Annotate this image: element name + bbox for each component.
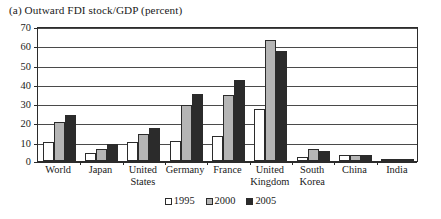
x-axis-label-line: States bbox=[113, 176, 173, 188]
bar-group bbox=[123, 28, 165, 161]
bar bbox=[234, 80, 245, 161]
x-axis-label: India bbox=[367, 164, 427, 176]
bar bbox=[212, 136, 223, 161]
y-tick-0 bbox=[34, 162, 38, 163]
bar bbox=[107, 144, 118, 161]
bar bbox=[223, 95, 234, 161]
x-axis-label-line: Korea bbox=[282, 176, 342, 188]
bar bbox=[138, 134, 149, 161]
bar bbox=[96, 149, 107, 161]
bar bbox=[297, 157, 308, 161]
bar bbox=[350, 155, 361, 161]
bar bbox=[361, 155, 372, 161]
y-axis-label-30: 30 bbox=[21, 100, 31, 110]
bar bbox=[319, 151, 330, 161]
chart-legend: 199520002005 bbox=[0, 196, 441, 206]
chart-title: (a) Outward FDI stock/GDP (percent) bbox=[9, 4, 182, 17]
legend-label: 2000 bbox=[215, 196, 236, 206]
bar bbox=[276, 51, 287, 161]
bar-group bbox=[292, 28, 334, 161]
y-axis-label-20: 20 bbox=[21, 119, 31, 129]
bar bbox=[127, 142, 138, 161]
legend-item-2000: 2000 bbox=[206, 196, 236, 206]
bar-group bbox=[250, 28, 292, 161]
figure: (a) Outward FDI stock/GDP (percent) 0102… bbox=[0, 0, 441, 219]
legend-swatch-icon bbox=[246, 198, 253, 205]
bar-group bbox=[334, 28, 376, 161]
bar bbox=[43, 142, 54, 161]
y-axis-label-40: 40 bbox=[21, 81, 31, 91]
legend-item-2005: 2005 bbox=[246, 196, 276, 206]
bar bbox=[149, 128, 160, 161]
bar bbox=[339, 155, 350, 161]
legend-swatch-icon bbox=[206, 198, 213, 205]
bar-group bbox=[165, 28, 207, 161]
bar bbox=[192, 94, 203, 162]
x-axis-labels: WorldJapanUnitedStatesGermanyFranceUnite… bbox=[37, 164, 418, 190]
x-axis-label-line: India bbox=[367, 164, 427, 176]
bar bbox=[403, 159, 414, 161]
bars-layer bbox=[38, 28, 417, 161]
legend-label: 1995 bbox=[174, 196, 195, 206]
bar bbox=[265, 40, 276, 162]
y-axis-label-60: 60 bbox=[21, 42, 31, 52]
plot-area: 010203040506070 bbox=[37, 27, 418, 162]
gridline-0 bbox=[38, 162, 417, 163]
bar bbox=[381, 159, 392, 161]
legend-item-1995: 1995 bbox=[165, 196, 195, 206]
bar-group bbox=[207, 28, 249, 161]
bar bbox=[170, 141, 181, 161]
bar-group bbox=[377, 28, 419, 161]
bar bbox=[308, 149, 319, 161]
legend-swatch-icon bbox=[165, 198, 172, 205]
bar bbox=[254, 109, 265, 161]
bar bbox=[85, 153, 96, 161]
bar bbox=[392, 159, 403, 161]
bar bbox=[181, 105, 192, 161]
bar-group bbox=[80, 28, 122, 161]
legend-label: 2005 bbox=[255, 196, 276, 206]
y-axis-label-70: 70 bbox=[21, 23, 31, 33]
y-axis-label-50: 50 bbox=[21, 61, 31, 71]
y-axis-label-10: 10 bbox=[21, 139, 31, 149]
bar bbox=[65, 115, 76, 161]
bar-group bbox=[38, 28, 80, 161]
bar bbox=[54, 122, 65, 161]
